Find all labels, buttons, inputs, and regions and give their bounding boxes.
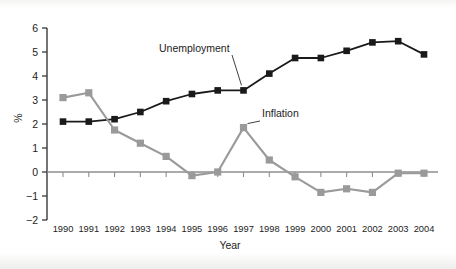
- data-point-marker: [421, 51, 428, 58]
- y-tick-label: 5: [32, 46, 38, 58]
- data-point-marker: [343, 48, 350, 55]
- y-tick-label: −1: [26, 190, 38, 202]
- data-point-marker: [317, 189, 324, 196]
- data-point-marker: [111, 116, 118, 123]
- x-tick-label: 2001: [336, 224, 357, 234]
- data-point-marker: [85, 89, 92, 96]
- y-tick-label: 6: [32, 22, 38, 34]
- x-tick-label: 1992: [104, 224, 125, 234]
- data-point-marker: [266, 70, 273, 77]
- y-tick-label: 2: [32, 118, 38, 130]
- annotation-inflation: Inflation: [262, 107, 299, 119]
- x-tick-label: 1997: [233, 224, 254, 234]
- annotation-unemployment: Unemployment: [159, 42, 230, 54]
- data-point-marker: [163, 98, 170, 105]
- y-tick-label: −2: [26, 214, 38, 226]
- y-tick-label: 1: [32, 142, 38, 154]
- data-point-marker: [420, 170, 427, 177]
- data-point-marker: [214, 87, 221, 94]
- x-axis: 1990199119921993199419951996199719981999…: [47, 172, 438, 234]
- y-axis: −2−10123456: [26, 22, 47, 226]
- x-tick-label: 2002: [362, 224, 383, 234]
- series-unemployment: [60, 38, 428, 125]
- data-point-marker: [137, 140, 144, 147]
- data-point-marker: [240, 87, 247, 94]
- data-point-marker: [163, 153, 170, 160]
- line-chart-plot: −2−10123456 1990199119921993199419951996…: [0, 0, 456, 269]
- x-tick-label: 1991: [78, 224, 99, 234]
- x-tick-label: 1990: [53, 224, 74, 234]
- data-point-marker: [85, 118, 92, 125]
- y-tick-label: 3: [32, 94, 38, 106]
- series-inflation: [59, 89, 427, 196]
- y-tick-label: 0: [32, 166, 38, 178]
- y-axis-title: %: [12, 113, 24, 122]
- chart-figure: −2−10123456 1990199119921993199419951996…: [0, 0, 456, 269]
- x-tick-label: 1994: [156, 224, 177, 234]
- data-point-marker: [343, 185, 350, 192]
- x-axis-title: Year: [219, 239, 241, 251]
- data-point-marker: [59, 94, 66, 101]
- data-point-marker: [60, 118, 67, 125]
- data-point-marker: [137, 109, 144, 116]
- x-tick-label: 1999: [285, 224, 306, 234]
- data-point-marker: [395, 38, 402, 45]
- y-tick-label: 4: [32, 70, 38, 82]
- data-point-marker: [369, 189, 376, 196]
- data-point-marker: [189, 91, 196, 98]
- data-point-marker: [188, 172, 195, 179]
- x-tick-label: 1998: [259, 224, 280, 234]
- x-tick-label: 2003: [388, 224, 409, 234]
- x-tick-label: 2000: [311, 224, 332, 234]
- data-point-marker: [291, 173, 298, 180]
- x-tick-label: 1995: [182, 224, 203, 234]
- data-point-marker: [111, 126, 118, 133]
- x-tick-label: 1996: [207, 224, 228, 234]
- data-point-marker: [318, 55, 325, 62]
- data-point-marker: [240, 124, 247, 131]
- x-tick-label: 1993: [130, 224, 151, 234]
- data-point-marker: [395, 170, 402, 177]
- data-point-marker: [369, 39, 376, 46]
- x-tick-label: 2004: [414, 224, 435, 234]
- data-point-marker: [214, 168, 221, 175]
- data-point-marker: [292, 55, 299, 62]
- series-annotations: UnemploymentInflation: [159, 42, 299, 124]
- data-point-marker: [266, 156, 273, 163]
